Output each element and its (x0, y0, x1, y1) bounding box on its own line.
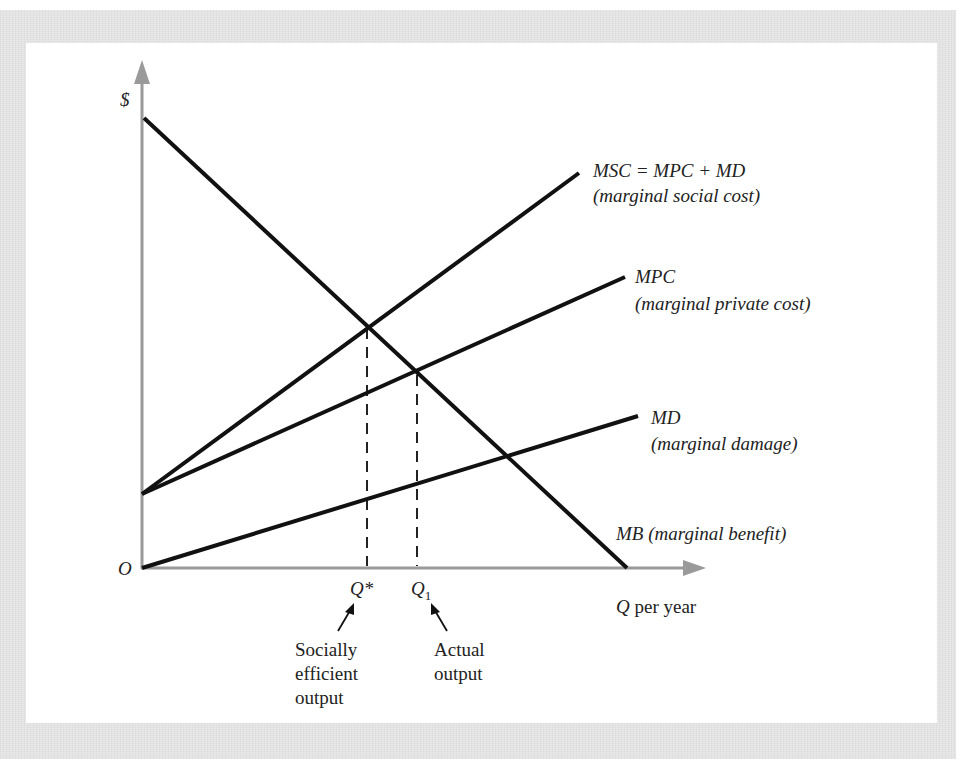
axes (134, 60, 706, 576)
origin-label: O (118, 557, 132, 580)
y-axis-arrow-icon (134, 60, 150, 84)
mpc-label: MPC (635, 265, 675, 288)
qstar-tick-label: Q* (350, 577, 373, 600)
x-axis-label: Q per year (616, 595, 696, 618)
qstar-arrow-icon (338, 603, 354, 631)
mb-label: MB (marginal benefit) (616, 522, 786, 545)
x-axis-unit: per year (630, 596, 696, 617)
msc-label: MSC = MPC + MD (593, 159, 745, 182)
q1-note-line-1: Actual (434, 638, 485, 661)
y-axis-label: $ (120, 88, 130, 111)
qstar-note-line-3: output (295, 686, 344, 709)
md-description: (marginal damage) (651, 432, 798, 455)
economics-chart (0, 0, 970, 777)
mb-curve (144, 118, 627, 568)
q1-letter: Q (411, 578, 425, 599)
msc-description: (marginal social cost) (593, 184, 760, 207)
qstar-note-line-2: efficient (295, 662, 358, 685)
qstar-note-line-1: Socially (295, 638, 357, 661)
msc-curve (142, 173, 579, 494)
q1-note-line-2: output (434, 662, 483, 685)
md-label: MD (651, 406, 681, 429)
mpc-curve (142, 277, 625, 494)
x-axis-arrow-icon (683, 560, 706, 576)
q1-tick-label: Q1 (411, 577, 431, 607)
q1-arrow-icon (431, 603, 447, 631)
q1-subscript: 1 (425, 588, 432, 603)
x-axis-variable: Q (616, 596, 630, 617)
mpc-description: (marginal private cost) (635, 292, 811, 315)
